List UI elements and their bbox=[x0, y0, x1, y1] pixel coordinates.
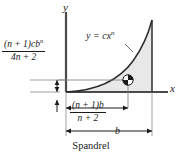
width-dimension-label: b bbox=[115, 126, 120, 136]
centroid-x-fraction: (n + 1)b n + 2 bbox=[70, 101, 106, 123]
centroid-y-numerator: (n + 1)cbn bbox=[2, 38, 45, 52]
centroid-y-denominator: 4n + 2 bbox=[2, 52, 45, 63]
origin-tick-arrow bbox=[55, 100, 60, 105]
x-axis-label: x bbox=[170, 83, 175, 94]
curve-label-leader bbox=[125, 44, 133, 52]
centroid-y-dimension-label: (n + 1)cbn 4n + 2 bbox=[2, 38, 45, 62]
spandrel-figure: y x y = cxn (n + 1)cbn 4n + 2 (n + 1)b n… bbox=[0, 0, 182, 160]
curve-equation-exponent: n bbox=[111, 29, 115, 37]
curve-equation-base: y = cx bbox=[86, 30, 111, 41]
y-axis-label: y bbox=[63, 2, 68, 13]
figure-caption: Spandrel bbox=[0, 141, 182, 152]
centroid-x-numerator: (n + 1)b bbox=[70, 101, 106, 113]
centroid-y-fraction: (n + 1)cbn 4n + 2 bbox=[2, 38, 45, 62]
centroid-x-arrow-right bbox=[123, 106, 128, 111]
centroid-x-denominator: n + 2 bbox=[70, 113, 106, 124]
figure-canvas bbox=[0, 0, 182, 160]
centroid-y-numerator-exponent: n bbox=[40, 37, 43, 44]
width-arrow-left bbox=[66, 129, 71, 134]
curve-equation-label: y = cxn bbox=[86, 30, 115, 41]
centroid-pie-marker bbox=[123, 75, 133, 85]
centroid-y-arrow-down bbox=[55, 87, 60, 92]
centroid-x-dimension-label: (n + 1)b n + 2 bbox=[70, 101, 106, 123]
centroid-y-numerator-base: (n + 1)cb bbox=[4, 39, 40, 49]
width-arrow-right bbox=[147, 129, 152, 134]
centroid-y-arrow-up bbox=[55, 80, 60, 85]
